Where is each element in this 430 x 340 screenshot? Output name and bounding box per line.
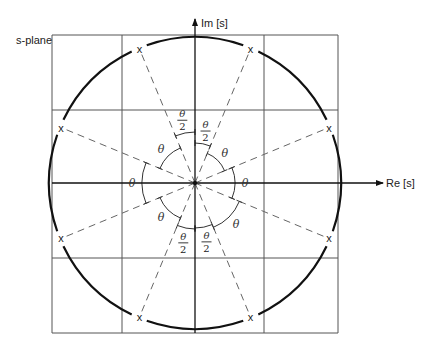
angle-half-theta-label: θ2	[178, 231, 188, 255]
pole-ray	[64, 129, 195, 183]
imag-axis-label: Im [s]	[201, 17, 228, 29]
s-plane-diagram: s-plane Im [s] Re [s] xxxxxxxx θ2θ2θθθθθ…	[0, 0, 430, 340]
angle-half-theta-label: θ2	[177, 108, 187, 132]
fraction-numerator: θ	[203, 119, 209, 130]
angle-theta-label: θ	[158, 211, 165, 224]
angle-theta-label: θ	[233, 218, 240, 231]
pole-ray	[64, 183, 195, 237]
circle-arc-segment	[258, 246, 326, 314]
pole-marker: x	[326, 122, 332, 134]
pole-ray	[195, 52, 249, 183]
angle-half-theta-label: θ2	[201, 119, 211, 143]
circle-arc-segment	[258, 51, 326, 119]
s-plane-label: s-plane	[16, 34, 52, 46]
pole-marker: x	[58, 122, 64, 134]
pole-ray	[141, 183, 195, 314]
real-axis-label: Re [s]	[386, 177, 415, 189]
angle-theta-label: θ	[158, 143, 165, 156]
pole-marker: x	[58, 232, 64, 244]
pole-ray	[195, 183, 326, 237]
fraction-numerator: θ	[203, 230, 209, 241]
fraction-denominator: 2	[180, 244, 186, 255]
angle-labels: θ2θ2θθθθθθθ2θ2	[129, 108, 249, 255]
angle-arc	[177, 225, 195, 229]
circle-arc-segment	[63, 246, 131, 314]
angle-theta-label: θ	[129, 177, 136, 190]
pole-marker: x	[248, 43, 254, 55]
angle-half-theta-label: θ2	[202, 230, 212, 254]
fraction-numerator: θ	[179, 108, 185, 119]
fraction-denominator: 2	[179, 121, 185, 132]
pole-marker: x	[326, 232, 332, 244]
pole-ray	[141, 52, 195, 183]
pole-marker: x	[137, 43, 143, 55]
pole-marker: x	[248, 311, 254, 323]
angle-theta-label: θ	[221, 147, 228, 160]
fraction-denominator: 2	[202, 132, 208, 143]
angle-arc	[195, 225, 212, 228]
fraction-denominator: 2	[203, 243, 209, 254]
angle-theta-label: θ	[242, 177, 249, 190]
origin-dot	[193, 181, 197, 185]
circle-arc-segment	[63, 51, 131, 119]
fraction-numerator: θ	[180, 231, 186, 242]
angle-arc	[175, 132, 195, 136]
angle-arc	[195, 143, 210, 146]
pole-marker: x	[137, 311, 143, 323]
pole-ray	[195, 129, 326, 183]
